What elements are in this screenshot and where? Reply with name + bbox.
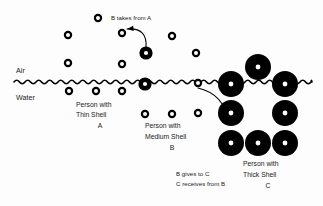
person-c-label-line1: Person with — [243, 160, 279, 167]
thin-shell-core — [67, 89, 71, 93]
thin-shell-core — [143, 112, 147, 116]
thick-shell-core — [283, 141, 288, 146]
person-a-label-line2: Thin Shell — [76, 111, 107, 118]
thick-shell-core — [229, 141, 234, 146]
person-a-label-line1: Person with — [76, 101, 112, 108]
diagram-canvas: Air Water B takes from A Person with Thi… — [0, 0, 323, 206]
thick-shell-core — [283, 82, 288, 87]
annotation-c-receives-from-b: C receives from B — [176, 180, 225, 187]
water-label: Water — [16, 93, 36, 102]
person-a-label-line3: A — [98, 122, 103, 129]
thick-shell-core — [256, 141, 261, 146]
thick-shell-core — [229, 82, 234, 87]
thin-shell-core — [120, 31, 124, 35]
thin-shell-core — [94, 89, 98, 93]
air-label: Air — [16, 66, 25, 75]
thin-shell-core — [120, 62, 124, 66]
thick-shell-core — [256, 65, 261, 70]
thin-shell-core — [66, 61, 70, 65]
shell-analogy-diagram: Air Water B takes from A Person with Thi… — [0, 0, 323, 206]
annotation-b-gives-to-c: B gives to C — [176, 170, 210, 177]
thin-shell-core — [96, 16, 100, 20]
thin-shell-core — [170, 34, 174, 38]
annotation-b-takes-from-a: B takes from A — [111, 14, 152, 21]
thick-shell-core — [229, 111, 234, 116]
medium-shell-core — [144, 51, 148, 55]
thin-shell-core — [120, 89, 124, 93]
person-c-label-line2: Thick Shell — [243, 171, 277, 178]
thick-shell-core — [283, 111, 288, 116]
person-c-label-line3: C — [266, 182, 271, 189]
thin-shell-core — [196, 81, 200, 85]
thin-shell-core — [66, 33, 70, 37]
thin-shell-core — [196, 111, 200, 115]
medium-shell-core — [143, 82, 147, 86]
person-b-label-line2: Medium Shell — [145, 133, 187, 140]
person-b-label-line1: Person with — [145, 122, 181, 129]
thin-shell-core — [170, 112, 174, 116]
thin-shell-core — [194, 51, 198, 55]
person-b-label-line3: B — [170, 144, 175, 151]
